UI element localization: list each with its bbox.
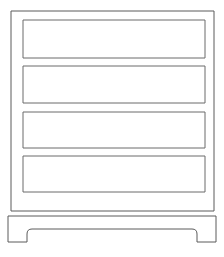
drawer-panel-4[interactable] [23, 156, 205, 192]
drawer-panel-3[interactable] [23, 112, 205, 148]
chest-of-drawers-illustration [0, 0, 224, 257]
drawer-panel-1[interactable] [23, 20, 205, 58]
drawer-panel-2[interactable] [23, 66, 205, 103]
drawing-canvas: Chest of Drawers [0, 0, 224, 257]
